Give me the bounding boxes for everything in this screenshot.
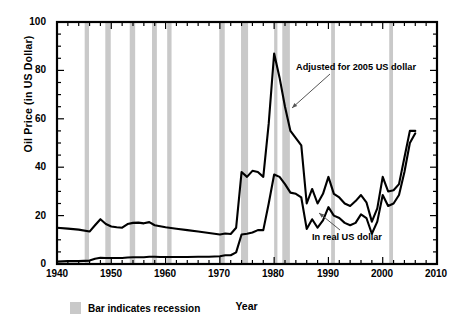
recession-band bbox=[219, 22, 224, 264]
plot-canvas bbox=[0, 0, 469, 324]
series-line bbox=[57, 53, 415, 234]
recession-band bbox=[130, 22, 135, 264]
recession-band bbox=[282, 22, 290, 264]
recession-band bbox=[389, 22, 393, 264]
legend-label-recession: Bar indicates recession bbox=[88, 303, 200, 314]
recession-band bbox=[85, 22, 89, 264]
annotation-real: In real US dollar bbox=[312, 232, 382, 242]
recession-band bbox=[105, 22, 110, 264]
recession-swatch bbox=[70, 302, 81, 314]
chart-figure: Oil Price (in US Dollar) Year 100 80 60 … bbox=[0, 0, 469, 324]
data-lines bbox=[57, 53, 415, 261]
annotation-adjusted: Adjusted for 2005 US dollar bbox=[296, 62, 416, 72]
recession-band bbox=[152, 22, 157, 264]
recession-band bbox=[241, 22, 248, 264]
adjusted-annotation-arrow bbox=[292, 74, 330, 108]
recession-band bbox=[331, 22, 335, 264]
recession-bands bbox=[85, 22, 393, 264]
chart-legend: Bar indicates recession bbox=[70, 302, 200, 314]
